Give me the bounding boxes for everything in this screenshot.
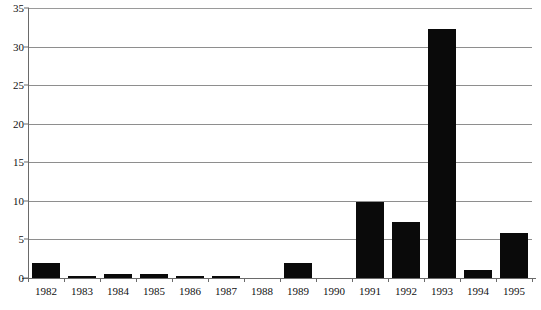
bar-slot: [388, 8, 424, 278]
x-axis-tick-mark: [208, 278, 209, 282]
y-axis-tick-label: 25: [13, 80, 24, 91]
x-axis-tick-label: 1983: [71, 285, 93, 298]
x-axis-tick-label: 1995: [503, 285, 525, 298]
bar-slot: [424, 8, 460, 278]
x-axis-tick-label: 1984: [107, 285, 129, 298]
bar: [428, 29, 456, 278]
bar-slot: [28, 8, 64, 278]
x-axis-tick-label: 1985: [143, 285, 165, 298]
x-axis-tick-mark: [64, 278, 65, 282]
bar-slot: [208, 8, 244, 278]
bar-slot: [352, 8, 388, 278]
x-axis-tick-label: 1992: [395, 285, 417, 298]
x-axis-tick-mark: [100, 278, 101, 282]
y-axis-tick-label: 20: [13, 118, 24, 129]
x-axis-tick-mark: [424, 278, 425, 282]
bar: [284, 263, 312, 278]
bar-slot: [172, 8, 208, 278]
y-axis-tick-mark: [24, 239, 29, 240]
bar-slot: [136, 8, 172, 278]
y-axis-tick-mark: [24, 162, 29, 163]
y-axis-tick-label: 30: [13, 41, 24, 52]
x-axis-tick-mark: [280, 278, 281, 282]
x-axis-tick-mark: [172, 278, 173, 282]
plot-area: [28, 8, 532, 278]
bar-chart: 05101520253035 1982198319841985198619871…: [0, 0, 541, 310]
x-axis-tick-mark: [136, 278, 137, 282]
y-axis-tick-mark: [24, 85, 29, 86]
x-axis-tick-mark: [532, 278, 533, 282]
x-axis-tick-mark: [460, 278, 461, 282]
x-axis-tick-mark: [28, 278, 29, 282]
bar: [500, 233, 528, 278]
y-axis-tick-label: 35: [13, 3, 24, 14]
bar: [32, 263, 60, 278]
y-axis-tick-mark: [24, 46, 29, 47]
x-axis-tick-mark: [496, 278, 497, 282]
y-axis-tick-mark: [24, 8, 29, 9]
y-axis-tick-mark: [24, 200, 29, 201]
x-axis-tick-label: 1994: [467, 285, 489, 298]
bar-slot: [280, 8, 316, 278]
x-axis-tick-label: 1988: [251, 285, 273, 298]
y-axis-tick-label: 10: [13, 195, 24, 206]
x-axis-tick-mark: [316, 278, 317, 282]
bar-slot: [244, 8, 280, 278]
x-axis-tick-label: 1993: [431, 285, 453, 298]
x-axis-tick-mark: [244, 278, 245, 282]
bar-slot: [460, 8, 496, 278]
x-axis-tick-label: 1990: [323, 285, 345, 298]
bar: [464, 270, 492, 278]
x-axis-tick-label: 1989: [287, 285, 309, 298]
x-axis-tick-labels: 1982198319841985198619871988198919901991…: [28, 285, 532, 305]
x-axis-tick-label: 1991: [359, 285, 381, 298]
x-axis-tick-mark: [352, 278, 353, 282]
y-axis-tick-label: 15: [13, 157, 24, 168]
bar: [356, 202, 384, 278]
bar-slot: [316, 8, 352, 278]
x-axis-tick-label: 1986: [179, 285, 201, 298]
x-axis-tick-label: 1987: [215, 285, 237, 298]
x-axis-tick-label: 1982: [35, 285, 57, 298]
bar-slot: [64, 8, 100, 278]
bar-slot: [496, 8, 532, 278]
x-axis-tick-marks: [28, 278, 532, 284]
y-axis-tick-mark: [24, 123, 29, 124]
bar-slot: [100, 8, 136, 278]
bar: [392, 222, 420, 278]
y-axis-tick-labels: 05101520253035: [0, 0, 24, 310]
x-axis-tick-mark: [388, 278, 389, 282]
